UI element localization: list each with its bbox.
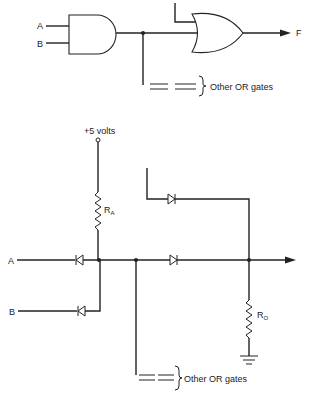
supply-terminal-icon (96, 138, 100, 142)
brace-icon (199, 76, 206, 96)
resistor-ro-label: RO (257, 310, 269, 321)
other-input-wire (147, 168, 168, 199)
output-arrow-icon (280, 30, 291, 37)
resistor-ra-label: RA (104, 205, 115, 216)
input-b-label: B (9, 307, 15, 317)
diode-b-icon (78, 306, 85, 316)
ground-icon (240, 356, 258, 364)
input-b-label: B (37, 39, 43, 49)
diode-a-icon (76, 255, 83, 265)
input-a-label: A (8, 256, 14, 266)
resistor-ro-icon (246, 300, 252, 338)
input-a-label: A (37, 21, 43, 31)
logic-diagram: A B F Other OR gates +5 volts (0, 0, 312, 398)
upper-diode-icon (168, 194, 175, 204)
output-arrow-icon (285, 257, 296, 264)
brace-icon (175, 366, 182, 390)
or-gate-icon (192, 13, 243, 52)
diode-or-circuit: +5 volts RA A B (8, 126, 296, 390)
output-diode-icon (170, 255, 177, 265)
output-f-label: F (296, 28, 302, 38)
and-gate-icon (69, 15, 116, 54)
top-gate-circuit: A B F Other OR gates (37, 3, 302, 96)
other-or-gates-label: Other OR gates (184, 374, 248, 384)
other-or-gates-label: Other OR gates (210, 82, 274, 92)
supply-label: +5 volts (84, 126, 116, 136)
node-b-wire (85, 260, 100, 311)
or-second-input-wire (175, 3, 196, 22)
resistor-ra-icon (95, 192, 101, 230)
upper-to-output-wire (175, 199, 249, 260)
